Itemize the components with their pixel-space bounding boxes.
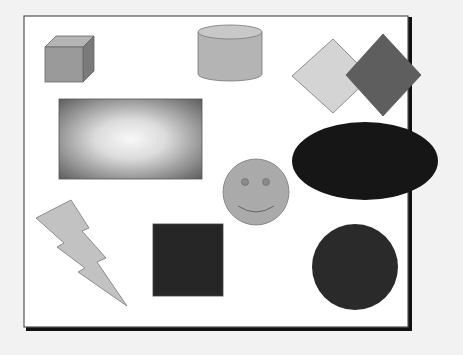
ellipse-shape[interactable]: [292, 122, 438, 200]
right-eye: [263, 179, 270, 186]
shapes-canvas: [0, 0, 463, 355]
cube-shape[interactable]: [45, 36, 94, 82]
smiley-face-shape[interactable]: [223, 159, 289, 225]
square-shape[interactable]: [153, 224, 223, 296]
circle-shape[interactable]: [312, 224, 398, 310]
gradient-rectangle-shape[interactable]: [59, 99, 202, 179]
cylinder-shape[interactable]: [198, 25, 262, 81]
left-eye: [242, 179, 249, 186]
